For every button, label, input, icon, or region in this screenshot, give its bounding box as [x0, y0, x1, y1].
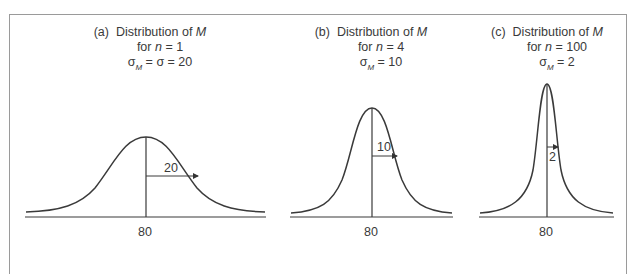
panel-a-curve — [25, 137, 266, 217]
panel-c-sd-label: 2 — [549, 150, 556, 164]
panel-c-mean-label: 80 — [539, 225, 553, 239]
panel-b-curve — [290, 108, 453, 217]
panel-b-mean-label: 80 — [364, 225, 378, 239]
panel-a-mean-label: 80 — [138, 225, 152, 239]
panel-a-sd-label: 20 — [164, 161, 178, 175]
panel-c-curve — [479, 84, 614, 217]
panel-b-sd-label: 10 — [377, 140, 391, 154]
